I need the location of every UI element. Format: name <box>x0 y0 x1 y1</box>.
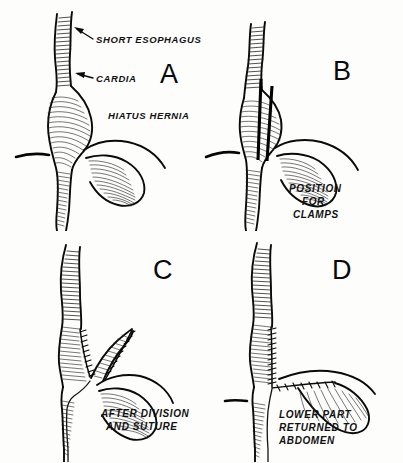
panel-c-caption: AFTER DIVISION AND SUTURE <box>100 408 190 432</box>
clamp-line-left <box>258 79 261 160</box>
hernia-sac-hatching-a <box>48 97 90 167</box>
stomach-fundus-hatching-a <box>89 161 135 206</box>
esophagus-lower-d <box>252 387 272 462</box>
vertical-suture-line-d <box>268 327 276 387</box>
caption-line-2: AND SUTURE <box>105 421 178 432</box>
panel-b: POSITION FOR CLAMPS B <box>201 0 402 231</box>
esophagus-upper-hatching-b <box>245 27 264 88</box>
horizontal-suture-line-d <box>272 381 335 391</box>
annotation-cardia: CARDIA <box>75 72 137 84</box>
panel-letter-b: B <box>333 56 351 86</box>
caption-line-3: ABDOMEN <box>278 435 335 446</box>
caption-line-1: POSITION <box>289 183 342 194</box>
panel-letter-d: D <box>332 255 352 285</box>
panel-d: LOWER PART RETURNED TO ABDOMEN D <box>201 231 402 462</box>
stomach-fundus-a <box>84 141 165 206</box>
cardia-label: CARDIA <box>96 73 137 84</box>
esophagus-lower-b <box>256 168 262 231</box>
panel-c: AFTER DIVISION AND SUTURE C <box>0 231 201 462</box>
esophagus-upper-a <box>55 12 72 92</box>
panel-a: SHORT ESOPHAGUS CARDIA HIATUS HERNIA A <box>0 0 201 231</box>
short-esophagus-label: SHORT ESOPHAGUS <box>96 34 201 45</box>
gastric-stump-hatching-c <box>94 335 129 378</box>
caption-line-1: AFTER DIVISION <box>100 408 190 419</box>
panel-letter-a: A <box>160 59 178 89</box>
caption-line-1: LOWER PART <box>279 409 352 420</box>
esophagus-upper-hatching-d <box>252 249 272 318</box>
panel-d-caption: LOWER PART RETURNED TO ABDOMEN <box>278 409 358 446</box>
esophagus-lower-a <box>66 170 72 231</box>
panel-b-caption: POSITION FOR CLAMPS <box>289 183 342 220</box>
hiatus-hernia-label: HIATUS HERNIA <box>108 110 190 121</box>
esophagus-upper-hatching-c <box>61 251 81 320</box>
caption-line-2: RETURNED TO <box>279 422 358 433</box>
panel-letter-c: C <box>153 255 173 285</box>
esophagus-upper-hatching-a <box>56 17 71 86</box>
figure-container: SHORT ESOPHAGUS CARDIA HIATUS HERNIA A <box>0 0 403 463</box>
esophagus-stump-hatching-c <box>59 327 86 381</box>
caption-line-3: CLAMPS <box>293 209 339 220</box>
diaphragm-left-b <box>206 152 239 157</box>
esophagus-stump-hatching-d <box>250 325 271 383</box>
diaphragm-left-d <box>225 400 247 401</box>
annotation-short-esophagus: SHORT ESOPHAGUS <box>74 27 201 45</box>
caption-line-2: FOR <box>302 196 325 207</box>
esophageal-suture-line-c <box>80 329 95 377</box>
diaphragm-left-a <box>16 154 49 157</box>
